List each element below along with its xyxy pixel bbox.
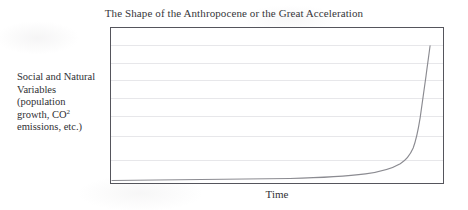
y-axis-label-line-4: growth, CO2 [17, 109, 109, 122]
anthropocene-figure: The Shape of the Anthropocene or the Gre… [0, 0, 468, 210]
y-axis-label-line-4-text: growth, CO [17, 109, 67, 120]
y-axis-label-line-2: Variables [17, 84, 109, 97]
x-axis-label: Time [110, 188, 444, 201]
co2-superscript: 2 [67, 107, 71, 115]
y-axis-label-line-5: emissions, etc.) [17, 121, 109, 134]
plot-area [110, 27, 444, 184]
chart-title: The Shape of the Anthropocene or the Gre… [0, 7, 468, 20]
y-axis-label-line-3: (population [17, 96, 109, 109]
y-axis-label: Social and Natural Variables (population… [17, 71, 109, 134]
exponential-growth-curve [111, 28, 443, 183]
y-axis-label-line-1: Social and Natural [17, 71, 109, 84]
